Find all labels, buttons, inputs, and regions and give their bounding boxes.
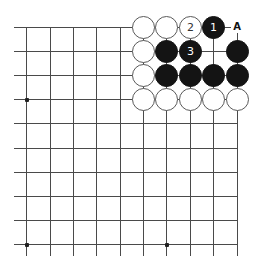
star-point xyxy=(25,243,29,247)
white-stone xyxy=(155,16,178,39)
grid-line-horizontal xyxy=(14,220,238,221)
grid-line-vertical xyxy=(120,27,121,256)
white-stone xyxy=(155,88,178,111)
white-stone xyxy=(132,40,155,63)
grid-line-vertical xyxy=(213,27,214,256)
black-stone xyxy=(202,64,225,87)
grid-line-horizontal xyxy=(14,51,238,52)
grid-line-horizontal xyxy=(14,148,238,149)
black-stone xyxy=(155,64,178,87)
star-point xyxy=(25,98,29,102)
grid-line-horizontal xyxy=(14,244,238,245)
white-stone xyxy=(132,88,155,111)
grid-line-vertical xyxy=(96,27,97,256)
grid-line-vertical xyxy=(73,27,74,256)
white-stone xyxy=(202,88,225,111)
grid-line-horizontal xyxy=(14,172,238,173)
white-stone xyxy=(132,64,155,87)
white-stone xyxy=(132,16,155,39)
black-stone: 1 xyxy=(202,16,225,39)
black-stone xyxy=(155,40,178,63)
grid-line-horizontal xyxy=(14,196,238,197)
go-board: A213 xyxy=(0,0,260,266)
black-stone xyxy=(226,64,249,87)
black-stone xyxy=(226,40,249,63)
black-stone xyxy=(179,64,202,87)
white-stone xyxy=(179,88,202,111)
grid-line-horizontal xyxy=(14,123,238,124)
white-stone xyxy=(226,88,249,111)
white-stone: 2 xyxy=(179,16,202,39)
black-stone: 3 xyxy=(179,40,202,63)
grid-line-vertical xyxy=(50,27,51,256)
star-point xyxy=(165,243,169,247)
point-label: A xyxy=(231,21,243,33)
grid-line-vertical xyxy=(26,27,27,256)
